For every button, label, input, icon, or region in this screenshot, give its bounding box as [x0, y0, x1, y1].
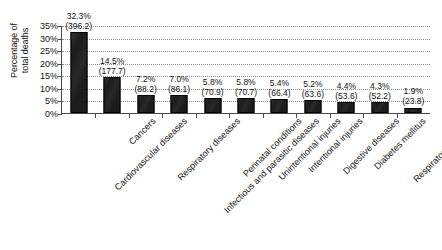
bar-value-label: 1.9%(23.8): [402, 86, 424, 106]
x-category-label: Diabetes mellitus: [372, 116, 428, 172]
y-tick-label: 10%: [28, 84, 58, 93]
bar-chart: Percentage of total deaths 35%30%25%20%1…: [0, 0, 442, 250]
bar-value-label: 32.3%(396.2): [65, 11, 92, 31]
y-tick-mark: [58, 114, 62, 115]
bar: [70, 32, 87, 113]
bar-slot: 7.2%(88.2): [129, 26, 162, 113]
bar-value-label: 5.2%(63.6): [302, 79, 324, 99]
bar-slot: 14.5%(177.7): [95, 26, 128, 113]
bar-percent-value: 5.8%: [235, 77, 257, 87]
bar-slot: 5.4%(66.4): [263, 26, 296, 113]
bar: [171, 95, 188, 113]
bar-slot: 32.3%(396.2): [62, 26, 95, 113]
bar-value-label: 4.4%(53.6): [335, 81, 357, 101]
bar-count-value: (70.7): [235, 87, 257, 97]
x-category-label: Cancers: [127, 116, 158, 147]
y-axis-tick-labels: 35%30%25%20%15%10%5%0%: [28, 22, 58, 114]
y-tick-label: 35%: [28, 22, 58, 31]
plot-area: 32.3%(396.2)14.5%(177.7)7.2%(88.2)7.0%(8…: [61, 26, 430, 114]
bar-percent-value: 7.0%: [168, 74, 190, 84]
bar-count-value: (86.1): [168, 84, 190, 94]
bar-slot: 5.2%(63.6): [296, 26, 329, 113]
bar-slot: 7.0%(86.1): [162, 26, 195, 113]
y-tick-label: 25%: [28, 47, 58, 56]
bar: [104, 77, 121, 113]
bar-value-label: 14.5%(177.7): [99, 56, 126, 76]
x-axis-category-labels: Cardiovascular diseasesCancersRespirator…: [61, 116, 430, 248]
y-axis-title: Percentage of total deaths: [9, 0, 30, 103]
bar-percent-value: 14.5%: [99, 56, 126, 66]
bar-value-label: 7.2%(88.2): [135, 74, 157, 94]
y-tick-label: 5%: [28, 97, 58, 106]
bar-slot: 4.4%(53.6): [330, 26, 363, 113]
bar: [137, 95, 154, 113]
bar-slot: 5.8%(70.9): [196, 26, 229, 113]
bar: [237, 98, 254, 113]
bar-count-value: (63.6): [302, 89, 324, 99]
bar: [371, 102, 388, 113]
bar-percent-value: 5.8%: [201, 77, 223, 87]
bar-percent-value: 32.3%: [65, 11, 92, 21]
bar: [304, 100, 321, 113]
bar-value-label: 7.0%(86.1): [168, 74, 190, 94]
bar: [405, 108, 422, 113]
bar-count-value: (23.8): [402, 96, 424, 106]
bar-count-value: (52.2): [369, 91, 391, 101]
bar-slot: 1.9%(23.8): [397, 26, 430, 113]
bar-slot: 5.8%(70.7): [229, 26, 262, 113]
bar-series: 32.3%(396.2)14.5%(177.7)7.2%(88.2)7.0%(8…: [62, 26, 430, 113]
bar-value-label: 5.4%(66.4): [268, 78, 290, 98]
bar-percent-value: 1.9%: [402, 86, 424, 96]
bar-percent-value: 4.4%: [335, 81, 357, 91]
bar-count-value: (66.4): [268, 88, 290, 98]
bar-percent-value: 5.2%: [302, 79, 324, 89]
bar-count-value: (177.7): [99, 66, 126, 76]
bar-count-value: (396.2): [65, 21, 92, 31]
bar-count-value: (88.2): [135, 84, 157, 94]
bar-value-label: 5.8%(70.7): [235, 77, 257, 97]
y-tick-label: 0%: [28, 110, 58, 119]
bar-percent-value: 4.3%: [369, 81, 391, 91]
bar-count-value: (53.6): [335, 91, 357, 101]
y-tick-label: 20%: [28, 59, 58, 68]
y-tick-label: 30%: [28, 34, 58, 43]
bar-count-value: (70.9): [201, 87, 223, 97]
bar-slot: 4.3%(52.2): [363, 26, 396, 113]
bar: [271, 99, 288, 113]
bar-percent-value: 7.2%: [135, 74, 157, 84]
y-tick-label: 15%: [28, 72, 58, 81]
bar: [204, 98, 221, 113]
bar-percent-value: 5.4%: [268, 78, 290, 88]
bar-value-label: 5.8%(70.9): [201, 77, 223, 97]
bar-value-label: 4.3%(52.2): [369, 81, 391, 101]
bar: [338, 102, 355, 113]
